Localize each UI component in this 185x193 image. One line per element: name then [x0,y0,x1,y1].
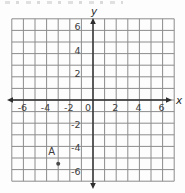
y-tick-label: 2 [74,68,80,79]
y-tick-label: 6 [74,21,80,32]
point-label: A [48,146,55,157]
cropped-text-remnant [5,1,123,4]
coordinate-grid-figure: -6-4-20246-6-4-2246 x y A [0,0,185,193]
x-tick-label: -6 [18,102,27,113]
point-dot [56,162,60,166]
y-tick-label: -4 [71,142,80,153]
axis-arrowhead [90,183,96,189]
x-tick-label: 2 [112,102,118,113]
y-tick-label: 4 [74,45,80,56]
x-tick-label: 6 [159,102,165,113]
coordinate-plane: -6-4-20246-6-4-2246 x y A [0,0,185,193]
x-tick-label: -2 [64,102,73,113]
axis-tick-labels: -6-4-20246-6-4-2246 [18,21,165,176]
x-tick-label: -4 [41,102,50,113]
x-tick-label: 4 [135,102,141,113]
y-axis-label: y [90,5,98,17]
y-tick-label: -6 [71,166,80,177]
y-tick-label: -2 [71,119,80,130]
axis-arrowhead [166,97,172,103]
axis-arrowhead [7,97,13,103]
x-axis-label: x [175,94,183,106]
x-tick-label: 0 [85,102,91,113]
